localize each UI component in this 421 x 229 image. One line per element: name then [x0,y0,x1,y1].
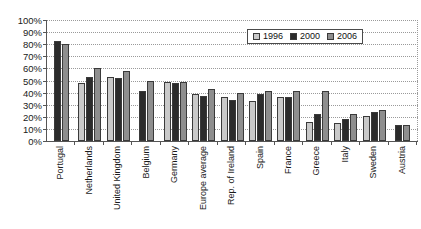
x-axis-tick-label: United Kingdom [113,146,123,218]
x-axis-label-cell: Greece [303,146,331,226]
x-axis-tick-label: Portugal [56,146,66,180]
x-axis-label-cell: Portugal [47,146,75,226]
bar [221,97,228,141]
y-axis-tick-label: 0% [0,137,42,146]
bar [172,83,179,141]
y-axis-tick [43,105,47,106]
chart-legend: 199620002006 [247,29,363,44]
bar [363,116,370,141]
bar [115,78,122,141]
x-axis-label-cell: Germany [161,146,189,226]
legend-item: 2006 [327,32,357,41]
legend-item: 2000 [290,32,320,41]
bar [265,91,272,141]
x-axis-label-cell: France [275,146,303,226]
legend-swatch-icon [327,33,334,40]
bar-group [47,20,75,141]
bar [78,83,85,141]
x-axis-tick-label: Sweden [370,146,380,179]
x-axis-label-cell: Sweden [360,146,388,226]
bar [54,41,61,141]
x-axis-tick [103,141,104,145]
x-axis-tick [217,141,218,145]
x-axis-tick [331,141,332,145]
bar [249,101,256,141]
bar-group [389,20,417,141]
bar [257,94,264,141]
bar [322,91,329,141]
bar [314,114,321,141]
x-axis-tick [302,141,303,145]
x-axis-tick-label: Belgium [142,146,152,179]
legend-label: 1996 [263,32,283,41]
bar [334,123,341,141]
x-axis-tick-label: Greece [313,146,323,176]
bar-group [75,20,103,141]
y-axis-tick-label: 80% [0,40,42,49]
x-axis-tick [188,141,189,145]
bar-group [218,20,246,141]
y-axis-tick-label: 90% [0,28,42,37]
bar-chart: 100%90%80%70%60%50%40%30%20%10%0% Portug… [0,0,421,229]
bar [86,77,93,141]
bar [306,122,313,141]
bar-group [161,20,189,141]
x-axis-tick-label: Spain [256,146,266,169]
y-axis-tick [43,129,47,130]
legend-swatch-icon [253,33,260,40]
bar-group [104,20,132,141]
y-axis: 100%90%80%70%60%50%40%30%20%10%0% [0,20,42,141]
y-axis-tick [43,141,47,142]
bar [342,119,349,141]
x-axis-tick-label: Germany [170,146,180,183]
bar [147,81,154,142]
bar [371,112,378,141]
y-axis-tick [43,32,47,33]
x-axis-label-cell: Belgium [132,146,160,226]
y-axis-tick-label: 100% [0,16,42,25]
legend-label: 2006 [337,32,357,41]
y-axis-tick-label: 30% [0,100,42,109]
y-axis-tick-label: 10% [0,124,42,133]
bar [229,100,236,141]
x-axis-label-cell: Austria [389,146,417,226]
x-axis-tick [131,141,132,145]
bar [107,77,114,141]
bar [192,94,199,141]
y-axis-tick [43,68,47,69]
x-axis-tick-label: Rep. of Ireland [227,146,237,218]
y-axis-tick [43,56,47,57]
y-axis-tick-label: 50% [0,76,42,85]
bar [237,93,244,141]
x-axis-tick-label: France [284,146,294,174]
x-axis-label-cell: Netherlands [75,146,103,226]
legend-swatch-icon [290,33,297,40]
y-axis-tick-label: 70% [0,52,42,61]
x-axis-tick [416,141,417,145]
x-axis-label-cell: Spain [246,146,274,226]
y-axis-tick-label: 60% [0,64,42,73]
bar [139,91,146,141]
legend-label: 2000 [300,32,320,41]
bar-group [189,20,217,141]
bar [180,82,187,141]
bar [293,91,300,141]
bar [208,89,215,141]
y-axis-tick-label: 20% [0,112,42,121]
bar-group [360,20,388,141]
x-axis-label-cell: Rep. of Ireland [218,146,246,226]
bar [379,110,386,141]
bar [285,97,292,141]
x-axis-tick [245,141,246,145]
x-axis-tick [274,141,275,145]
bar-group [132,20,160,141]
y-axis-tick-label: 40% [0,88,42,97]
bar [123,71,130,141]
x-axis-tick-label: Austria [398,146,408,174]
y-axis-tick [43,44,47,45]
x-axis-tick-label: Italy [341,146,351,163]
x-axis-label-cell: Italy [332,146,360,226]
bar [62,44,69,141]
x-axis-tick [359,141,360,145]
x-axis-tick-label: Europe average [199,146,209,218]
